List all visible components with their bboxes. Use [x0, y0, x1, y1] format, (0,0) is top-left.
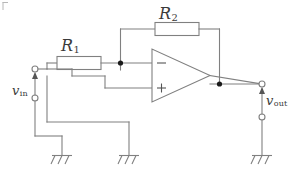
schematic-canvas — [0, 0, 302, 183]
ground-noninverting — [118, 156, 139, 165]
ground-output-return — [251, 156, 272, 165]
resistor-r2-body — [155, 23, 199, 36]
noninverting-input-branch — [47, 69, 152, 88]
input-port — [32, 66, 38, 101]
input-branch-r1 — [38, 57, 152, 70]
inverting-input-node — [118, 60, 123, 65]
vout-arrow-icon — [259, 87, 265, 94]
vin-label: vin — [12, 84, 28, 99]
ground-input-return — [51, 156, 72, 165]
vout-negative-terminal[interactable] — [259, 114, 265, 120]
vin-positive-terminal[interactable] — [32, 66, 38, 72]
circuit-diagram-figure: R1 R2 vin vout — [0, 0, 302, 183]
vin-negative-terminal[interactable] — [32, 95, 38, 101]
vout-label: vout — [266, 94, 287, 109]
vout-subscript: out — [273, 99, 287, 108]
opamp-triangle — [152, 49, 210, 102]
resistor-r1-body — [57, 57, 101, 70]
output-branch — [210, 76, 265, 156]
vin-subscript: in — [19, 89, 27, 98]
vout-positive-terminal[interactable] — [259, 81, 265, 87]
output-node — [217, 81, 222, 86]
resistor-r2-symbol: R — [159, 4, 171, 23]
resistor-r2-subscript: 2 — [171, 12, 178, 23]
corner-crop-mark — [3, 2, 8, 10]
resistor-r1-label: R1 — [61, 38, 80, 55]
vin-arrow-icon — [32, 72, 38, 79]
resistor-r2-label: R2 — [159, 6, 178, 23]
opamp — [118, 49, 210, 102]
resistor-r1-symbol: R — [61, 36, 73, 55]
resistor-r1-subscript: 1 — [73, 44, 80, 55]
